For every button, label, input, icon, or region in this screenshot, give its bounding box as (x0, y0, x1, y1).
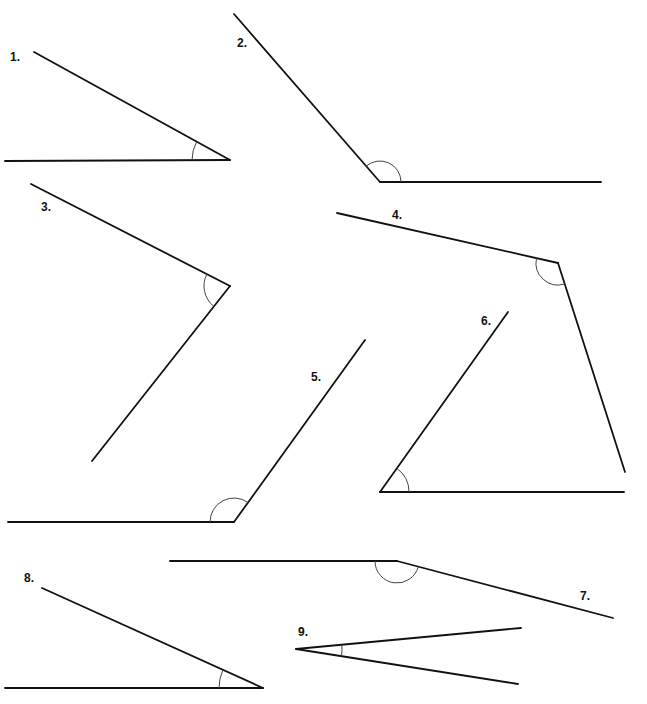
angle-label-9: 9. (298, 625, 308, 639)
angle-2 (234, 14, 601, 182)
angle-3 (31, 184, 230, 461)
angle-label-4: 4. (392, 208, 402, 222)
angle-6-ray-1 (380, 312, 508, 492)
angle-9-ray-1 (296, 628, 521, 649)
angles-diagram (0, 0, 647, 704)
angle-3-arc (204, 274, 214, 306)
angle-1-ray-1 (34, 52, 230, 160)
angle-label-6: 6. (481, 314, 491, 328)
angle-1-ray-2 (5, 160, 230, 161)
angle-4-ray-2 (558, 263, 625, 472)
angle-1-arc (192, 142, 197, 161)
angle-1 (5, 52, 230, 161)
angle-9 (296, 628, 521, 684)
angle-6 (380, 312, 624, 492)
angle-label-5: 5. (311, 370, 321, 384)
angle-5 (8, 340, 365, 522)
angle-3-ray-2 (92, 286, 230, 461)
angle-3-ray-1 (31, 184, 230, 286)
angle-9-arc (341, 645, 342, 656)
angle-5-ray-1 (234, 340, 365, 522)
angle-6-arc (397, 468, 409, 492)
angle-8-arc (219, 670, 223, 688)
angle-label-2: 2. (237, 36, 247, 50)
angle-8 (5, 588, 263, 688)
angle-label-7: 7. (580, 589, 590, 603)
angle-7 (170, 561, 613, 618)
angle-4-ray-1 (337, 213, 558, 263)
angle-8-ray-1 (42, 588, 263, 688)
angle-9-ray-2 (296, 649, 518, 684)
angle-label-3: 3. (41, 200, 51, 214)
angle-label-8: 8. (24, 571, 34, 585)
angle-2-ray-1 (234, 14, 380, 182)
angle-label-1: 1. (10, 50, 20, 64)
angle-4 (337, 213, 625, 472)
